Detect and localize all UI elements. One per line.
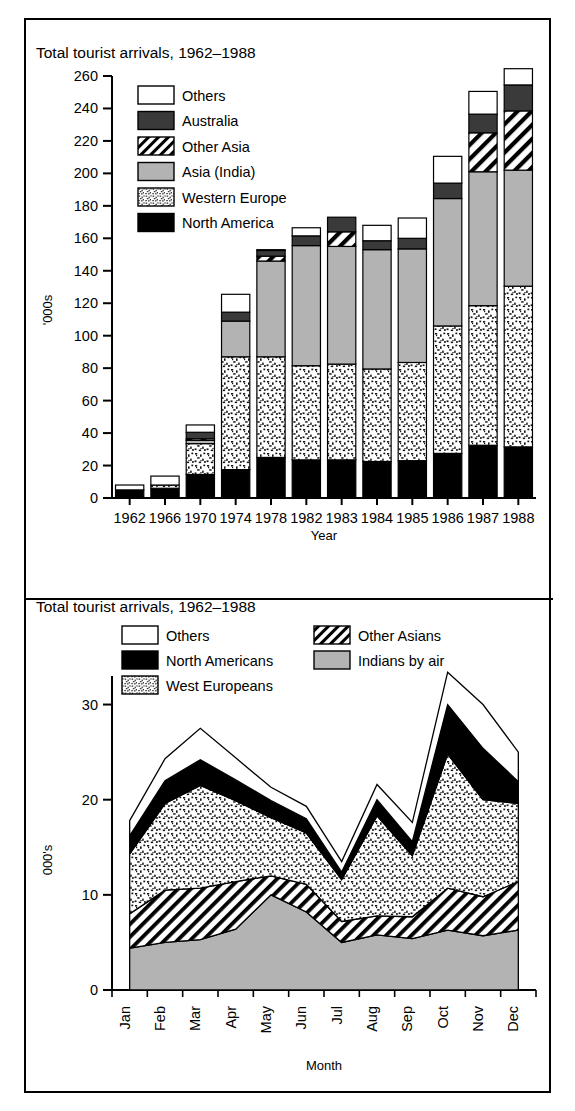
- bar-segment[interactable]: [434, 326, 462, 453]
- bar-segment[interactable]: [328, 460, 356, 498]
- x-tick-label: May: [258, 1005, 274, 1033]
- bar-segment[interactable]: [222, 321, 250, 357]
- bar-segment[interactable]: [151, 488, 179, 498]
- bar-segment[interactable]: [363, 461, 391, 498]
- bar-segment[interactable]: [469, 445, 497, 498]
- bar-segment[interactable]: [469, 172, 497, 306]
- bar-segment[interactable]: [398, 461, 426, 498]
- bar-segment[interactable]: [186, 432, 214, 438]
- x-tick-label: 1985: [396, 510, 428, 526]
- bar-segment[interactable]: [398, 249, 426, 363]
- bar-segment[interactable]: [257, 250, 285, 256]
- x-tick-label: Jul: [329, 1006, 345, 1025]
- bar-segment[interactable]: [328, 232, 356, 247]
- bar-segment[interactable]: [363, 225, 391, 240]
- top-chart-legend[interactable]: OthersAustraliaOther AsiaAsia (India)Wes…: [138, 86, 287, 232]
- bar-segment[interactable]: [151, 476, 179, 485]
- bar-segment[interactable]: [116, 490, 144, 498]
- y-tick-label: 30: [82, 697, 98, 713]
- bottom-chart-legend[interactable]: OthersOther AsiansNorth AmericansIndians…: [122, 626, 444, 694]
- legend-label-asia_india: Asia (India): [182, 164, 255, 180]
- y-tick-label: 220: [74, 133, 98, 149]
- bar-segment[interactable]: [186, 444, 214, 475]
- bar-segment[interactable]: [504, 286, 532, 447]
- bar-segment[interactable]: [434, 199, 462, 326]
- bar-segment[interactable]: [398, 362, 426, 460]
- bar-segment[interactable]: [469, 114, 497, 133]
- bar-segment[interactable]: [292, 246, 320, 366]
- x-tick-label: 1970: [184, 510, 216, 526]
- bar-segment[interactable]: [186, 474, 214, 498]
- legend-label-australia: Australia: [182, 113, 239, 129]
- top-chart-bars: [116, 69, 533, 498]
- bar-segment[interactable]: [222, 357, 250, 470]
- bar-segment[interactable]: [469, 91, 497, 114]
- y-tick-label: 60: [82, 393, 98, 409]
- legend-swatch-indians_by_air: [314, 651, 350, 669]
- x-tick-label: 1987: [467, 510, 499, 526]
- x-tick-label: Dec: [505, 1006, 521, 1032]
- x-tick-label: Apr: [223, 1006, 239, 1029]
- x-tick-label: Aug: [364, 1006, 380, 1032]
- bar-segment[interactable]: [222, 294, 250, 312]
- bar-segment[interactable]: [328, 246, 356, 364]
- bar-segment[interactable]: [398, 218, 426, 238]
- bar-segment[interactable]: [292, 236, 320, 246]
- bar-segment[interactable]: [398, 238, 426, 249]
- bar-segment[interactable]: [222, 470, 250, 498]
- bar-segment[interactable]: [469, 133, 497, 172]
- figure-frame: Total tourist arrivals, 1962–1988 020406…: [24, 18, 551, 1093]
- legend-swatch-asia_india: [138, 163, 174, 181]
- top-chart-y-axis-label: '000s: [40, 294, 55, 325]
- legend-swatch-west_europeans: [122, 676, 158, 694]
- bar-segment[interactable]: [504, 170, 532, 286]
- legend-swatch-others: [138, 86, 174, 104]
- figure-page: Total tourist arrivals, 1962–1988 020406…: [0, 0, 575, 1111]
- top-chart-y-ticks: 020406080100120140160180200220240260: [74, 68, 112, 506]
- bar-segment[interactable]: [434, 156, 462, 183]
- y-tick-label: 20: [82, 458, 98, 474]
- bar-segment[interactable]: [257, 357, 285, 458]
- bar-segment[interactable]: [328, 217, 356, 232]
- legend-swatch-western_europe: [138, 188, 174, 206]
- top-chart-x-axis-label: Year: [311, 528, 338, 543]
- x-tick-label: 1974: [220, 510, 252, 526]
- bar-segment[interactable]: [257, 457, 285, 498]
- bar-segment[interactable]: [257, 250, 285, 251]
- bar-segment[interactable]: [363, 250, 391, 369]
- bar-segment[interactable]: [292, 228, 320, 236]
- bar-segment[interactable]: [222, 312, 250, 321]
- bar-segment[interactable]: [257, 256, 285, 261]
- legend-label-others: Others: [166, 628, 210, 644]
- bar-segment[interactable]: [363, 241, 391, 250]
- bar-segment[interactable]: [434, 453, 462, 498]
- bar-segment[interactable]: [363, 369, 391, 462]
- bar-segment[interactable]: [504, 85, 532, 111]
- bar-segment[interactable]: [504, 111, 532, 170]
- legend-label-north_america: North Americans: [166, 653, 273, 669]
- bar-segment[interactable]: [328, 364, 356, 460]
- y-tick-label: 140: [74, 263, 98, 279]
- bottom-chart-y-ticks: 0102030: [82, 697, 112, 998]
- bottom-chart-svg: Total tourist arrivals, 1962–1988 010203…: [26, 580, 553, 1093]
- top-chart-title: Total tourist arrivals, 1962–1988: [36, 44, 256, 61]
- bar-segment[interactable]: [504, 69, 532, 85]
- x-tick-label: Jan: [117, 1006, 133, 1029]
- x-tick-label: Feb: [152, 1006, 168, 1031]
- legend-label-other_asians: Other Asians: [358, 628, 441, 644]
- bar-segment[interactable]: [504, 447, 532, 498]
- bar-segment[interactable]: [434, 183, 462, 198]
- y-tick-label: 20: [82, 792, 98, 808]
- top-chart-svg: Total tourist arrivals, 1962–1988 020406…: [26, 20, 553, 580]
- legend-label-others: Others: [182, 88, 226, 104]
- bar-segment[interactable]: [292, 460, 320, 498]
- bar-segment[interactable]: [469, 306, 497, 446]
- bottom-chart-panel: Total tourist arrivals, 1962–1988 010203…: [26, 580, 553, 1093]
- bar-segment[interactable]: [116, 485, 144, 490]
- y-tick-label: 0: [90, 490, 98, 506]
- bar-segment[interactable]: [257, 261, 285, 357]
- x-tick-label: 1978: [255, 510, 287, 526]
- bar-segment[interactable]: [186, 425, 214, 432]
- top-chart-panel: Total tourist arrivals, 1962–1988 020406…: [26, 20, 553, 580]
- bar-segment[interactable]: [292, 366, 320, 460]
